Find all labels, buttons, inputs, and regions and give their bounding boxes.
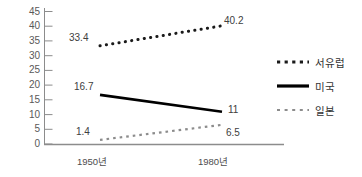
value-label-miguk-1980: 11: [228, 104, 238, 115]
legend-swatch-solid-icon: [276, 80, 310, 92]
series-line-ilbon: [100, 125, 222, 140]
value-label-ilbon-1950: 1.4: [76, 126, 90, 137]
y-axis-tick-labels: 45 40 35 30 25 20 15 10 5 0: [12, 0, 40, 177]
legend-item-ilbon[interactable]: 일본: [276, 98, 360, 122]
value-label-seo-yureop-1950: 33.4: [69, 32, 88, 43]
series-line-miguk: [100, 95, 222, 112]
chart-legend: 서유럽 미국 일본: [276, 50, 360, 122]
legend-swatch-dashed-thin-icon: [276, 104, 310, 116]
y-tick-label: 45: [14, 7, 40, 17]
value-label-ilbon-1980: 6.5: [226, 127, 240, 138]
x-tick-label-1980: 1980년: [198, 156, 228, 167]
line-chart: 45 40 35 30 25 20 15 10 5 0 1950년 1980년 …: [0, 0, 362, 177]
y-tick-label: 25: [14, 65, 40, 75]
x-tick-label-1950: 1950년: [77, 156, 107, 167]
y-tick-label: 0: [14, 139, 40, 149]
y-axis-ticks: [45, 12, 53, 145]
legend-item-miguk[interactable]: 미국: [276, 74, 360, 98]
value-label-seo-yureop-1980: 40.2: [224, 15, 243, 26]
y-tick-label: 10: [14, 110, 40, 120]
legend-swatch-dotted-thick-icon: [276, 56, 310, 68]
legend-label-ilbon: 일본: [310, 103, 335, 118]
y-tick-label: 5: [14, 124, 40, 134]
legend-label-seo-yureop: 서유럽: [310, 55, 345, 70]
y-tick-label: 35: [14, 36, 40, 46]
legend-item-seo-yureop[interactable]: 서유럽: [276, 50, 360, 74]
y-tick-label: 40: [14, 21, 40, 31]
value-label-miguk-1950: 16.7: [74, 81, 93, 92]
legend-label-miguk: 미국: [310, 79, 335, 94]
y-tick-label: 15: [14, 95, 40, 105]
y-tick-label: 30: [14, 51, 40, 61]
series-line-seo-yureop: [100, 26, 222, 46]
y-tick-label: 20: [14, 80, 40, 90]
